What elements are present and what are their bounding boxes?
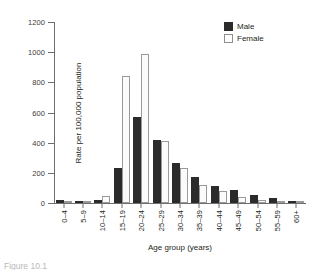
bar-male — [250, 195, 258, 203]
x-axis-tick: 45–49 — [229, 204, 248, 244]
y-axis-tick-label: 200 — [32, 168, 45, 177]
y-axis-tick-label: 600 — [32, 108, 45, 117]
chart-legend: MaleFemale — [224, 22, 264, 46]
legend-label: Male — [237, 23, 254, 31]
x-axis-tick: 55–59 — [267, 204, 286, 244]
bar-female — [180, 168, 188, 203]
x-axis-tick: 50–54 — [248, 204, 267, 244]
x-axis-tick-label: 45–49 — [234, 210, 243, 231]
bar-female — [122, 76, 130, 203]
x-axis-tick-label: 55–59 — [272, 210, 281, 231]
x-axis-tick-mark — [296, 204, 297, 208]
x-axis-tick-mark — [180, 204, 181, 208]
legend-swatch-male — [224, 22, 233, 31]
x-axis-tick-label: 25–29 — [156, 210, 165, 231]
x-axis-tick-label: 0–4 — [59, 210, 68, 223]
x-axis-tick-mark — [121, 204, 122, 208]
x-axis-tick-mark — [199, 204, 200, 208]
y-axis-tick-label: 0 — [41, 199, 45, 208]
bar-group — [151, 22, 170, 203]
bar-female — [277, 201, 285, 203]
x-axis-tick: 20–24 — [132, 204, 151, 244]
x-axis-tick: 25–29 — [151, 204, 170, 244]
x-axis-tick-label: 15–19 — [117, 210, 126, 231]
bar-female — [296, 201, 304, 203]
x-axis-tick-label: 35–39 — [195, 210, 204, 231]
bar-female — [238, 197, 246, 203]
bar-group — [54, 22, 73, 203]
bar-female — [199, 185, 207, 203]
x-axis-tick-mark — [276, 204, 277, 208]
legend-item-male: Male — [224, 22, 264, 31]
bar-male — [75, 201, 83, 203]
x-axis-tick-mark — [238, 204, 239, 208]
x-axis-tick-label: 60+ — [292, 210, 301, 223]
bar-group — [170, 22, 189, 203]
bar-group — [93, 22, 112, 203]
x-axis-tick-mark — [218, 204, 219, 208]
x-axis-tick-mark — [102, 204, 103, 208]
x-axis-tick: 5–9 — [73, 204, 92, 244]
bar-female — [102, 196, 110, 203]
legend-item-female: Female — [224, 34, 264, 43]
x-axis-tick-mark — [160, 204, 161, 208]
bar-group — [248, 22, 267, 203]
x-axis-tick: 40–44 — [209, 204, 228, 244]
x-axis-tick-label: 5–9 — [79, 210, 88, 223]
y-axis-tick-label: 800 — [32, 78, 45, 87]
bar-male — [288, 201, 296, 203]
x-axis-title: Age group (years) — [54, 243, 306, 252]
bar-group — [229, 22, 248, 203]
x-axis-tick: 10–14 — [93, 204, 112, 244]
bar-group — [267, 22, 286, 203]
bar-male — [133, 117, 141, 203]
bar-male — [230, 190, 238, 203]
bar-male — [269, 198, 277, 203]
bar-male — [211, 186, 219, 203]
x-axis-tick: 35–39 — [190, 204, 209, 244]
x-axis-tick: 30–34 — [170, 204, 189, 244]
bar-group — [209, 22, 228, 203]
y-axis-tick-label: 400 — [32, 138, 45, 147]
x-axis-tick-label: 10–14 — [98, 210, 107, 231]
bar-female — [64, 201, 72, 203]
bar-male — [172, 163, 180, 203]
bar-male — [114, 168, 122, 203]
bar-group — [132, 22, 151, 203]
x-axis-tick: 15–19 — [112, 204, 131, 244]
x-axis-tick-mark — [141, 204, 142, 208]
x-axis-tick-label: 30–34 — [176, 210, 185, 231]
bar-female — [83, 201, 91, 203]
x-axis-tick-mark — [83, 204, 84, 208]
bar-groups — [54, 22, 306, 203]
x-axis-tick-mark — [257, 204, 258, 208]
bar-group — [73, 22, 92, 203]
figure-caption: Figure 10.1 — [4, 261, 47, 270]
y-axis-tick-labels: 020040060080010001200 — [0, 22, 45, 274]
bar-group — [112, 22, 131, 203]
x-axis-tick: 0–4 — [54, 204, 73, 244]
bar-female — [258, 200, 266, 203]
legend-label: Female — [237, 35, 264, 43]
bar-female — [161, 141, 169, 203]
bar-male — [94, 200, 102, 203]
bar-group — [190, 22, 209, 203]
y-axis-tick-label: 1000 — [28, 48, 45, 57]
x-axis-tick: 60+ — [287, 204, 306, 244]
x-axis-tick-label: 40–44 — [214, 210, 223, 231]
y-axis-tick-label: 1200 — [28, 18, 45, 27]
x-axis-tick-label: 20–24 — [137, 210, 146, 231]
legend-swatch-female — [224, 34, 233, 43]
bar-female — [219, 191, 227, 203]
bar-male — [56, 200, 64, 203]
x-axis-tick-label: 50–54 — [253, 210, 262, 231]
bar-male — [191, 177, 199, 203]
bar-group — [287, 22, 306, 203]
bar-male — [153, 140, 161, 203]
x-axis-tick-mark — [63, 204, 64, 208]
x-axis-tick-labels: 0–45–910–1415–1920–2425–2930–3435–3940–4… — [54, 204, 306, 244]
bar-female — [141, 54, 149, 203]
